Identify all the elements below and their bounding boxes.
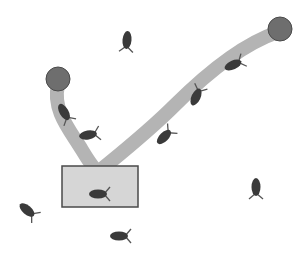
bacterium-icon <box>249 178 263 199</box>
bacterium-icon <box>16 199 41 223</box>
cell-body <box>17 201 37 219</box>
diagram-canvas <box>0 0 303 258</box>
target-box <box>62 166 138 207</box>
cell-body <box>89 190 107 199</box>
cell-body <box>110 232 128 241</box>
cell-body <box>122 31 133 50</box>
source-left-node <box>46 67 70 91</box>
cell-body <box>252 178 261 196</box>
bacterium-icon <box>110 229 131 243</box>
path-left <box>57 85 96 170</box>
source-right-node <box>268 17 292 41</box>
diagram-svg <box>0 0 303 258</box>
bacterium-icon <box>119 30 135 52</box>
